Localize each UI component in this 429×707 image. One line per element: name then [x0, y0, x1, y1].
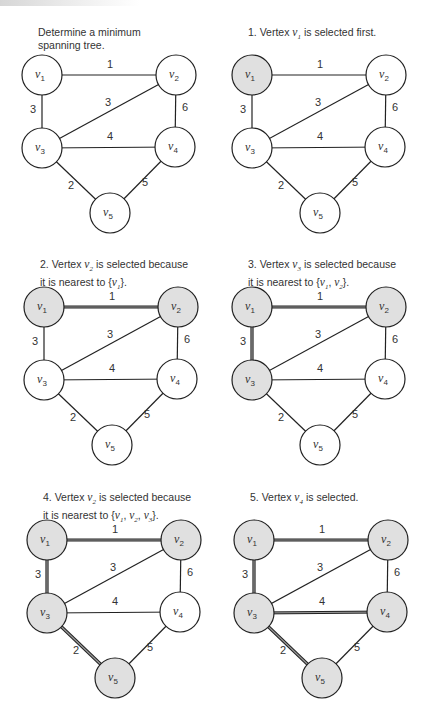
edge-weight-label: 3 — [315, 328, 321, 340]
vertex-v2: v2 — [161, 520, 201, 560]
edge-weight-label: 2 — [280, 644, 286, 656]
edge-weight-label: 2 — [68, 179, 74, 191]
edge-weight-label: 3 — [240, 335, 246, 347]
step-panel-0: Determine a minimumspanning tree.1336425… — [0, 0, 214, 240]
vertex-v1: v1 — [27, 520, 67, 560]
edge-weight-label: 2 — [278, 411, 284, 423]
step-panel-2: 2. Vertex v2 is selected becauseit is ne… — [2, 232, 216, 472]
vertex-v5: v5 — [302, 658, 342, 698]
graph-diagram: 1336425v1v2v3v4v5 — [210, 232, 424, 472]
vertex-v1: v1 — [22, 55, 62, 95]
edge-weight-label: 2 — [73, 644, 79, 656]
edge-weight-label: 3 — [30, 103, 36, 115]
edge-weight-label: 3 — [315, 96, 321, 108]
edge-weight-label: 6 — [182, 101, 188, 113]
edge-weight-label: 4 — [107, 130, 113, 142]
vertex-v5: v5 — [92, 425, 132, 465]
vertex-v3: v3 — [27, 593, 67, 633]
vertex-v5: v5 — [95, 658, 135, 698]
edge-weight-label: 6 — [184, 333, 190, 345]
vertex-v4: v4 — [365, 127, 405, 167]
edge-weight-label: 4 — [112, 595, 118, 607]
edge-weight-label: 4 — [109, 362, 115, 374]
edge-weight-label: 6 — [392, 101, 398, 113]
vertex-v4: v4 — [155, 127, 195, 167]
vertex-v3: v3 — [234, 593, 274, 633]
edge-weight-label: 5 — [147, 641, 153, 653]
vertex-v4: v4 — [160, 592, 200, 632]
vertex-v1: v1 — [24, 287, 64, 327]
edge-weight-label: 4 — [317, 130, 323, 142]
edge-weight-label: 5 — [142, 176, 148, 188]
step-panel-5: 5. Vertex v4 is selected.1336425v1v2v3v4… — [212, 465, 426, 705]
edge-weight-label: 5 — [144, 408, 150, 420]
vertex-v3: v3 — [22, 128, 62, 168]
edge-weight-label: 3 — [32, 335, 38, 347]
edge-weight-label: 1 — [317, 58, 323, 70]
vertex-v2: v2 — [156, 55, 196, 95]
step-panel-3: 3. Vertex v3 is selected becauseit is ne… — [210, 232, 424, 472]
vertex-v3: v3 — [232, 128, 272, 168]
edge-weight-label: 5 — [352, 408, 358, 420]
edge-weight-label: 4 — [319, 595, 325, 607]
edge-weight-label: 6 — [394, 566, 400, 578]
edge-weight-label: 3 — [242, 568, 248, 580]
vertex-v2: v2 — [158, 287, 198, 327]
edge-weight-label: 1 — [317, 290, 323, 302]
vertex-v2: v2 — [366, 55, 406, 95]
graph-diagram: 1336425v1v2v3v4v5 — [5, 465, 219, 705]
edge-weight-label: 1 — [112, 523, 118, 535]
edge-weight-label: 3 — [35, 568, 41, 580]
edge-weight-label: 1 — [319, 523, 325, 535]
step-panel-1: 1. Vertex v1 is selected first.1336425v1… — [210, 0, 424, 240]
graph-diagram: 1336425v1v2v3v4v5 — [0, 0, 214, 240]
edge-weight-label: 5 — [352, 176, 358, 188]
vertex-v2: v2 — [366, 287, 406, 327]
edge-weight-label: 2 — [70, 411, 76, 423]
vertex-v5: v5 — [300, 193, 340, 233]
step-panel-4: 4. Vertex v2 is selected becauseit is ne… — [5, 465, 219, 705]
vertex-v2: v2 — [368, 520, 408, 560]
edge-weight-label: 1 — [107, 58, 113, 70]
vertex-v1: v1 — [232, 287, 272, 327]
edge-weight-label: 1 — [109, 290, 115, 302]
edge-weight-label: 6 — [392, 333, 398, 345]
edge-weight-label: 3 — [240, 103, 246, 115]
vertex-v3: v3 — [232, 360, 272, 400]
edge-weight-label: 3 — [107, 328, 113, 340]
vertex-v1: v1 — [234, 520, 274, 560]
vertex-v5: v5 — [300, 425, 340, 465]
graph-diagram: 1336425v1v2v3v4v5 — [212, 465, 426, 705]
vertex-v3: v3 — [24, 360, 64, 400]
graph-diagram: 1336425v1v2v3v4v5 — [2, 232, 216, 472]
vertex-v5: v5 — [90, 193, 130, 233]
edge-weight-label: 6 — [187, 566, 193, 578]
edge-weight-label: 3 — [317, 561, 323, 573]
vertex-v1: v1 — [232, 55, 272, 95]
vertex-v4: v4 — [157, 359, 197, 399]
edge-weight-label: 4 — [317, 362, 323, 374]
edge-weight-label: 3 — [110, 561, 116, 573]
graph-diagram: 1336425v1v2v3v4v5 — [210, 0, 424, 240]
edge-weight-label: 2 — [278, 179, 284, 191]
vertex-v4: v4 — [367, 592, 407, 632]
edge-weight-label: 3 — [105, 96, 111, 108]
vertex-v4: v4 — [365, 359, 405, 399]
edge-weight-label: 5 — [354, 641, 360, 653]
